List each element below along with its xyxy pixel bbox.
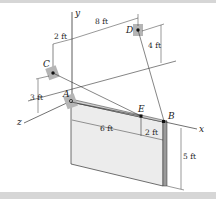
point-e: [140, 115, 143, 118]
label-b: B: [167, 111, 175, 121]
statics-diagram: 2 ft 8 ft 4 ft 3 ft 6 ft 2 ft 5 ft y z x…: [0, 0, 216, 199]
dim-label-d-offset: 8 ft: [95, 17, 108, 26]
point-d: [136, 28, 139, 31]
x-axis: [165, 122, 197, 129]
dim-label-c-offset: 2 ft: [54, 32, 67, 41]
axis-label-z: z: [16, 117, 22, 127]
dim-label-ae: 6 ft: [100, 124, 113, 133]
wall-line: [28, 61, 176, 101]
dim-tick-d-top: [142, 24, 164, 31]
dim-label-d-height: 4 ft: [148, 41, 161, 50]
z-axis: [24, 101, 71, 123]
axis-label-y: y: [74, 8, 81, 18]
dim-tick-c: [36, 76, 49, 79]
dim-label-c-height: 3 ft: [30, 93, 43, 102]
label-d: D: [125, 25, 133, 35]
dim-label-eb: 2 ft: [145, 128, 158, 137]
bottom-border-band: [0, 192, 216, 199]
axis-label-x: x: [199, 124, 204, 134]
point-c: [51, 71, 54, 74]
label-a: A: [62, 89, 70, 99]
plate-edge: [163, 121, 167, 186]
label-c: C: [43, 59, 50, 69]
label-e: E: [137, 104, 145, 114]
point-b: [162, 120, 165, 123]
dim-tick-5ft-bottom: [167, 186, 184, 190]
dim-label-plate-height: 5 ft: [183, 152, 196, 161]
plate-face: [71, 102, 163, 186]
